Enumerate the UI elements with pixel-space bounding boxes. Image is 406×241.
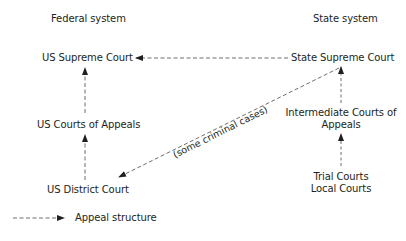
- state-system-header: State system: [313, 13, 378, 25]
- node-us-supreme-court: US Supreme Court: [42, 52, 133, 64]
- trial-line-1: Trial Courts: [311, 171, 372, 183]
- node-us-district-court: US District Court: [47, 184, 129, 196]
- intermediate-line-2: Appeals: [286, 119, 397, 131]
- node-state-supreme-court: State Supreme Court: [291, 52, 394, 64]
- federal-system-header: Federal system: [51, 13, 126, 25]
- node-us-courts-of-appeals: US Courts of Appeals: [37, 119, 140, 131]
- legend-label: Appeal structure: [75, 212, 157, 224]
- intermediate-line-1: Intermediate Courts of: [286, 107, 397, 119]
- trial-line-2: Local Courts: [311, 183, 372, 195]
- node-intermediate-courts-of-appeals: Intermediate Courts of Appeals: [286, 107, 397, 131]
- node-trial-local-courts: Trial Courts Local Courts: [311, 171, 372, 195]
